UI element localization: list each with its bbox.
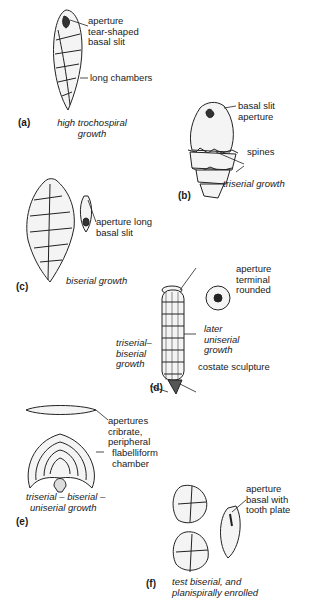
label-line: later bbox=[204, 324, 239, 335]
shell-e-icon bbox=[26, 406, 96, 493]
label-b-aperture: basal slit aperture bbox=[238, 101, 275, 122]
label-line: basal slit bbox=[96, 228, 152, 239]
caption-e: triserial – biserial – uniserial growth bbox=[26, 492, 105, 513]
caption-line: triserial– bbox=[116, 338, 152, 349]
caption-line: high trochospiral bbox=[52, 118, 132, 129]
shell-a-icon bbox=[54, 10, 83, 110]
caption-d: triserial– biserial growth bbox=[116, 338, 152, 370]
label-a-aperture: aperture tear-shaped basal slit bbox=[88, 16, 139, 48]
label-line: aperture bbox=[236, 264, 271, 275]
label-c-aperture: aperture long basal slit bbox=[96, 217, 152, 238]
label-line: aperture bbox=[246, 484, 290, 495]
label-f-aperture: aperture basal with tooth plate bbox=[246, 484, 290, 516]
panel-tag-d: (d) bbox=[150, 382, 163, 393]
caption-line: uniserial growth bbox=[26, 503, 105, 514]
panel-tag-a: (a) bbox=[18, 117, 30, 128]
panel-tag-c: (c) bbox=[16, 281, 28, 292]
label-line: aperture bbox=[88, 16, 139, 27]
label-line: basal slit bbox=[238, 101, 275, 112]
label-line: aperture bbox=[238, 112, 275, 123]
label-e-apertures: apertures cribrate, peripheral bbox=[108, 416, 150, 448]
label-d-later-uniserial: later uniserial growth bbox=[204, 324, 239, 356]
label-line: peripheral bbox=[108, 437, 150, 448]
caption-line: test biserial, and bbox=[172, 577, 258, 588]
caption-c: biserial growth bbox=[66, 276, 127, 287]
panel-tag-f: (f) bbox=[146, 578, 156, 589]
caption-a: high trochospiral growth bbox=[52, 118, 132, 139]
label-line: chamber bbox=[112, 459, 158, 470]
panel-tag-b: (b) bbox=[178, 190, 191, 201]
caption-line: planispirally enrolled bbox=[172, 588, 258, 599]
label-b-spines: spines bbox=[247, 147, 274, 158]
caption-f: test biserial, and planispirally enrolle… bbox=[172, 577, 258, 598]
label-line: rounded bbox=[236, 285, 271, 296]
label-e-flabelliform: flabelliform chamber bbox=[112, 448, 158, 469]
label-line: apertures bbox=[108, 416, 150, 427]
label-a-long-chambers: long chambers bbox=[90, 73, 152, 84]
label-line: basal slit bbox=[88, 37, 139, 48]
caption-line: growth bbox=[52, 129, 132, 140]
shell-f-icon bbox=[173, 485, 240, 572]
panel-tag-e: (e) bbox=[16, 516, 28, 527]
label-line: growth bbox=[204, 345, 239, 356]
caption-line: growth bbox=[116, 359, 152, 370]
label-line: flabelliform bbox=[112, 448, 158, 459]
caption-line: triserial – biserial – bbox=[26, 492, 105, 503]
label-d-aperture: aperture terminal rounded bbox=[236, 264, 271, 296]
label-line: aperture long bbox=[96, 217, 152, 228]
caption-b: triserial growth bbox=[223, 179, 285, 190]
label-d-costate: costate sculpture bbox=[198, 362, 270, 373]
label-line: tooth plate bbox=[246, 505, 290, 516]
leader-lines bbox=[70, 20, 246, 512]
shell-c-icon bbox=[27, 179, 92, 282]
